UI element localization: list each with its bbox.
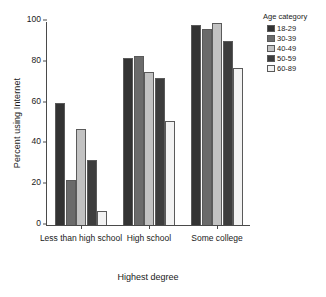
legend-item: 30-39 (267, 33, 319, 43)
bar (233, 68, 243, 225)
legend-swatch (267, 65, 275, 72)
y-axis-tick-label: 40 (32, 136, 41, 147)
legend-item: 50-59 (267, 53, 319, 63)
bar (55, 103, 65, 225)
legend-label: 18-29 (277, 24, 296, 33)
plot-area: 020406080100 Less than high schoolHigh s… (46, 22, 250, 226)
y-axis-tick-label: 60 (32, 95, 41, 106)
legend: Age category 18-2930-3940-4950-5960-89 (263, 12, 319, 73)
y-axis-tick-label: 20 (32, 177, 41, 188)
bar (165, 121, 175, 225)
legend-item: 40-49 (267, 43, 319, 53)
legend-label: 40-49 (277, 44, 296, 53)
bar (97, 211, 107, 225)
bar (191, 25, 201, 225)
y-axis-tick-mark (43, 224, 47, 225)
x-axis-tick-mark (217, 225, 218, 229)
bar (202, 29, 212, 225)
legend-label: 50-59 (277, 54, 296, 63)
x-axis-title: Highest degree (46, 272, 250, 282)
y-axis-tick-mark (43, 101, 47, 102)
bar (66, 180, 76, 225)
bar (223, 41, 233, 225)
bar-chart: Percent using Internet 020406080100 Less… (0, 0, 326, 297)
legend-swatch (267, 45, 275, 52)
y-axis-tick-label: 100 (27, 14, 41, 25)
bar-group (55, 22, 107, 225)
y-axis-tick-mark (43, 142, 47, 143)
y-axis-tick-label: 0 (36, 218, 41, 229)
bar (87, 160, 97, 225)
legend-item: 18-29 (267, 23, 319, 33)
y-axis-tick-label: 80 (32, 54, 41, 65)
legend-title: Age category (263, 12, 319, 21)
y-axis-tick-mark (43, 20, 47, 21)
bar (212, 23, 222, 225)
legend-swatch (267, 55, 275, 62)
bar-group (123, 22, 175, 225)
x-axis-category-label: Some college (170, 233, 264, 244)
bar (123, 58, 133, 225)
legend-swatch (267, 25, 275, 32)
y-axis-title: Percent using Internet (12, 43, 22, 203)
x-axis-tick-mark (149, 225, 150, 229)
y-axis-tick-mark (43, 183, 47, 184)
legend-label: 30-39 (277, 34, 296, 43)
bar (76, 129, 86, 225)
legend-swatch (267, 35, 275, 42)
bar (144, 72, 154, 225)
bar-group (191, 22, 243, 225)
legend-items: 18-2930-3940-4950-5960-89 (263, 23, 319, 73)
x-axis-tick-mark (81, 225, 82, 229)
bar (134, 56, 144, 225)
y-axis-tick-mark (43, 60, 47, 61)
legend-label: 60-89 (277, 64, 296, 73)
legend-item: 60-89 (267, 63, 319, 73)
bar (155, 78, 165, 225)
